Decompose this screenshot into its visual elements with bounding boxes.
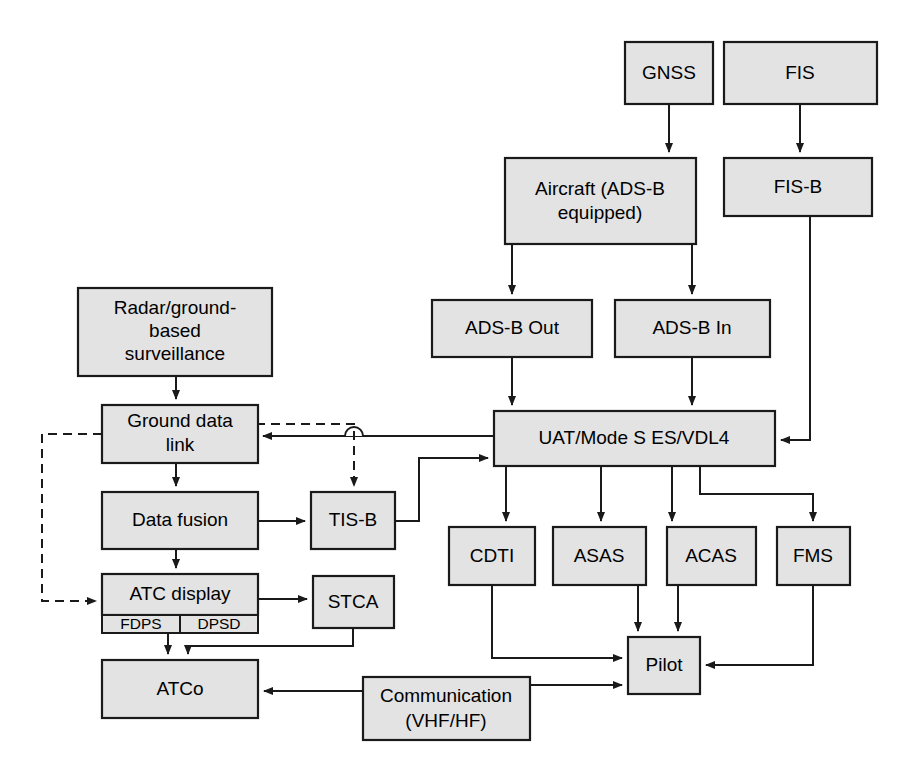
node-radar-surveillance[interactable]: Radar/ground- based surveillance	[78, 288, 272, 376]
node-communication[interactable]: Communication (VHF/HF)	[363, 677, 530, 740]
node-data-fusion-label: Data fusion	[132, 509, 228, 530]
system-architecture-diagram: GNSS FIS Aircraft (ADS-B equipped) FIS-B	[0, 0, 913, 768]
node-radar-label-line3: surveillance	[125, 343, 225, 364]
node-aircraft[interactable]: Aircraft (ADS-B equipped)	[505, 158, 696, 244]
node-adsb-in-label: ADS-B In	[652, 317, 731, 338]
node-asas[interactable]: ASAS	[553, 527, 646, 585]
node-fdps[interactable]: FDPS	[102, 615, 180, 633]
node-atco-label: ATCo	[156, 678, 203, 699]
node-tisb[interactable]: TIS-B	[311, 492, 395, 549]
node-gnss[interactable]: GNSS	[625, 42, 713, 104]
edge-fisb-to-uat	[781, 216, 810, 440]
node-fdps-label: FDPS	[120, 615, 161, 632]
node-adsb-out-label: ADS-B Out	[465, 317, 560, 338]
node-adsb-in[interactable]: ADS-B In	[615, 300, 770, 357]
node-radar-label-line2: based	[149, 320, 201, 341]
diagram-canvas: GNSS FIS Aircraft (ADS-B equipped) FIS-B	[0, 0, 913, 768]
edge-tisb-to-uat	[395, 458, 488, 521]
node-dpsd[interactable]: DPSD	[180, 615, 258, 633]
node-dpsd-label: DPSD	[197, 615, 240, 632]
node-acas-label: ACAS	[685, 545, 737, 566]
node-atco[interactable]: ATCo	[102, 660, 258, 718]
edge-ground-data-link-to-tisb	[256, 424, 354, 486]
node-pilot[interactable]: Pilot	[628, 637, 700, 694]
node-acas[interactable]: ACAS	[667, 527, 756, 585]
node-atc-display[interactable]: ATC display	[102, 574, 258, 615]
edge-fms-to-pilot	[706, 585, 813, 665]
node-communication-label-line1: Communication	[380, 685, 512, 706]
nodes-layer: GNSS FIS Aircraft (ADS-B equipped) FIS-B	[78, 42, 877, 740]
edge-cdti-to-pilot	[492, 585, 622, 658]
node-uat-label: UAT/Mode S ES/VDL4	[539, 427, 730, 448]
node-fms[interactable]: FMS	[777, 527, 850, 585]
node-gnss-label: GNSS	[642, 62, 696, 83]
node-cdti[interactable]: CDTI	[449, 527, 535, 585]
node-data-fusion[interactable]: Data fusion	[102, 492, 258, 549]
node-tisb-label: TIS-B	[329, 509, 378, 530]
node-cdti-label: CDTI	[470, 545, 514, 566]
edge-uat-to-fms	[700, 466, 813, 521]
node-aircraft-label-line2: equipped)	[558, 202, 643, 223]
node-fms-label: FMS	[793, 545, 833, 566]
node-stca[interactable]: STCA	[313, 576, 394, 628]
node-stca-label: STCA	[328, 591, 379, 612]
node-asas-label: ASAS	[574, 545, 625, 566]
node-aircraft-label-line1: Aircraft (ADS-B	[535, 178, 665, 199]
node-adsb-out[interactable]: ADS-B Out	[432, 300, 592, 357]
node-communication-label-line2: (VHF/HF)	[405, 710, 486, 731]
node-ground-data-link[interactable]: Ground data link	[102, 405, 258, 463]
node-radar-label-line1: Radar/ground-	[114, 297, 237, 318]
node-ground-data-link-label-line1: Ground data	[127, 410, 233, 431]
node-fis[interactable]: FIS	[724, 42, 877, 104]
node-fis-label: FIS	[785, 62, 815, 83]
node-uat-mode-s-es-vdl4[interactable]: UAT/Mode S ES/VDL4	[494, 411, 775, 466]
node-ground-data-link-label-line2: link	[166, 434, 195, 455]
node-fisb[interactable]: FIS-B	[724, 158, 872, 216]
node-fisb-label: FIS-B	[774, 176, 823, 197]
node-pilot-label: Pilot	[646, 654, 684, 675]
edge-ground-data-link-to-atc-display	[42, 434, 102, 601]
node-atc-display-label: ATC display	[129, 583, 231, 604]
